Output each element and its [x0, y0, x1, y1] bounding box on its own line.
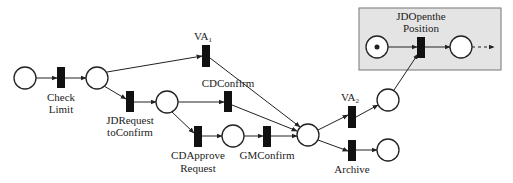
transition-label: toConfirm — [107, 126, 153, 138]
place-p_start — [14, 67, 36, 89]
transition-label: CDApprove — [171, 149, 225, 161]
arc-arrow — [356, 105, 378, 117]
transition-t_jdrequest — [126, 91, 134, 112]
transition-t_va1 — [202, 45, 210, 67]
transition-label: Position — [403, 22, 440, 34]
transition-label: CDConfirm — [202, 77, 255, 89]
place-p_checked — [86, 67, 108, 89]
transition-t_check_limit — [57, 67, 65, 88]
transition-label: Archive — [334, 163, 370, 175]
arc-arrow — [318, 140, 348, 151]
transition-label: VA2 — [341, 91, 359, 105]
place-p_archive — [377, 139, 399, 161]
place-p_position_end — [450, 36, 472, 58]
arc-arrow — [107, 56, 202, 72]
transition-t_archive — [348, 140, 356, 161]
arc-arrow — [210, 58, 300, 127]
transition-label: GMConfirm — [240, 149, 295, 161]
place-p_requested — [156, 91, 178, 113]
transition-t_cdconfirm — [224, 91, 232, 112]
token-icon — [375, 45, 380, 50]
transition-label: Limit — [49, 103, 73, 115]
transition-label: Request — [180, 162, 215, 174]
place-p_approved — [222, 125, 244, 147]
transition-t_cdapprove — [194, 126, 202, 147]
transition-label: JDRequest — [106, 114, 154, 126]
transition-t_gmconfirm — [263, 126, 271, 147]
arc-arrow — [172, 112, 194, 133]
transition-label: JDOpenthe — [396, 10, 446, 22]
transition-t_jdopen — [417, 37, 425, 58]
arc-arrow — [104, 86, 126, 99]
petri-net-diagram: CheckLimitVA1JDRequesttoConfirmCDConfirm… — [0, 0, 513, 183]
transition-t_va2 — [348, 106, 356, 128]
place-p_va2 — [377, 89, 399, 111]
transition-label: VA1 — [194, 30, 212, 44]
transition-label: Check — [47, 91, 76, 103]
place-p_merge — [297, 124, 319, 146]
arc-arrow — [318, 115, 348, 130]
